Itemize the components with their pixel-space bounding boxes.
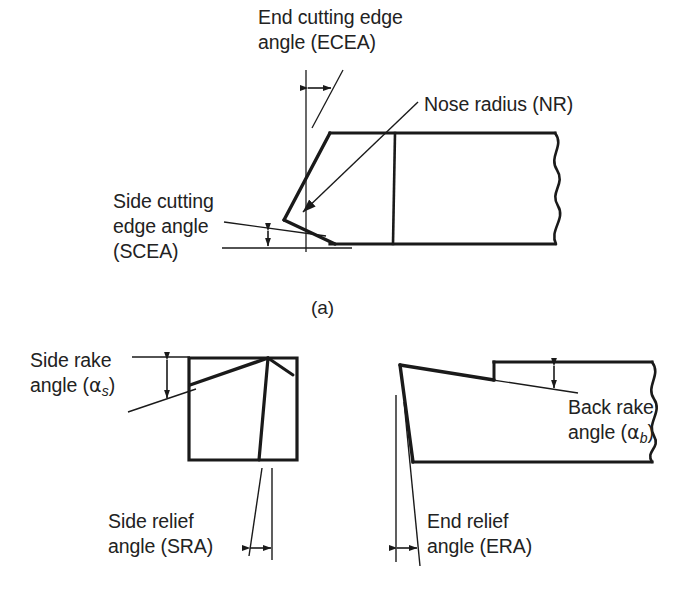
scea-label-line2: edge angle bbox=[113, 214, 209, 239]
scea-label-line1: Side cutting bbox=[113, 189, 214, 214]
alpha-b-symbol: α bbox=[627, 421, 640, 444]
side-rake-angle-indicator bbox=[128, 357, 196, 412]
nose-radius-label: Nose radius (NR) bbox=[424, 92, 573, 117]
ecea-label-line2: angle (ECEA) bbox=[258, 30, 376, 55]
view-b-left-tool-square bbox=[189, 358, 297, 460]
nose-radius-leader bbox=[303, 102, 418, 212]
end-relief-label-line1: End relief bbox=[427, 509, 508, 534]
scea-label-line3: (SCEA) bbox=[113, 239, 179, 264]
side-relief-label-line1: Side relief bbox=[108, 509, 194, 534]
back-rake-label-line2: angle (αb) bbox=[568, 420, 654, 451]
tool-geometry-figure: End cutting edge angle (ECEA) Nose radiu… bbox=[0, 0, 676, 614]
end-relief-label-line2: angle (ERA) bbox=[427, 534, 532, 559]
side-rake-suffix: ) bbox=[109, 374, 115, 396]
side-rake-label-line1: Side rake bbox=[30, 348, 111, 373]
side-relief-angle-indicator bbox=[249, 468, 272, 560]
subfigure-caption-a: (a) bbox=[311, 295, 334, 320]
back-rake-angle-indicator bbox=[460, 366, 578, 393]
ecea-angle-indicator bbox=[306, 70, 343, 252]
alpha-b-subscript: b bbox=[639, 430, 647, 446]
side-rake-prefix: angle ( bbox=[30, 374, 89, 396]
view-a-toolholder-outline bbox=[284, 133, 560, 244]
nose-radius-arrow bbox=[303, 102, 418, 212]
figure-linework bbox=[0, 0, 676, 614]
side-rake-label-line2: angle (αs) bbox=[30, 373, 115, 404]
ecea-label-line1: End cutting edge bbox=[258, 5, 403, 30]
back-rake-prefix: angle ( bbox=[568, 421, 627, 443]
back-rake-suffix: ) bbox=[648, 421, 654, 443]
alpha-s-subscript: s bbox=[101, 383, 108, 399]
side-relief-label-line2: angle (SRA) bbox=[108, 534, 213, 559]
back-rake-label-line1: Back rake bbox=[568, 395, 654, 420]
alpha-s-symbol: α bbox=[89, 374, 102, 397]
